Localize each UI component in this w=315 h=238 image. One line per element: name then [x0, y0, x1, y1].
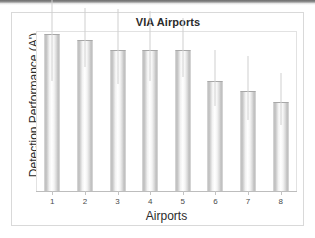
- bar-group: [167, 31, 199, 191]
- x-tick-label: 5: [167, 197, 199, 206]
- x-tick: [183, 191, 184, 195]
- x-tick-label: 2: [69, 197, 101, 206]
- x-tick: [248, 191, 249, 195]
- x-tick-label: 3: [102, 197, 134, 206]
- error-bar: [52, 0, 53, 81]
- bar-group: [102, 31, 134, 191]
- x-tick: [85, 191, 86, 195]
- bar-group: [69, 31, 101, 191]
- page-edge-band-fade: [0, 3, 315, 5]
- x-tick-label: 8: [265, 197, 297, 206]
- chart-title: VIA Airports: [38, 16, 298, 28]
- error-bar: [248, 56, 249, 120]
- x-tick: [281, 191, 282, 195]
- bar-group: [36, 31, 68, 191]
- x-axis-ticks: [36, 191, 297, 196]
- x-tick-label: 7: [232, 197, 264, 206]
- x-tick-label: 4: [134, 197, 166, 206]
- bar-group: [232, 31, 264, 191]
- x-tick: [150, 191, 151, 195]
- bar-group: [265, 31, 297, 191]
- error-bar: [182, 18, 183, 76]
- x-axis-tick-labels: 12345678: [36, 197, 297, 209]
- x-tick: [118, 191, 119, 195]
- bar-group: [134, 31, 166, 191]
- x-tick-label: 1: [36, 197, 68, 206]
- error-bar: [117, 9, 118, 84]
- error-bar: [84, 8, 85, 68]
- x-axis-label: Airports: [36, 209, 297, 223]
- error-bar: [280, 73, 281, 125]
- error-bar: [150, 11, 151, 82]
- x-tick: [52, 191, 53, 195]
- error-bar: [215, 50, 216, 106]
- x-tick-label: 6: [199, 197, 231, 206]
- bars-layer: [36, 31, 297, 191]
- chart-page: VIA Airports Detection Performance (A') …: [0, 0, 315, 238]
- x-tick: [215, 191, 216, 195]
- bar-group: [199, 31, 231, 191]
